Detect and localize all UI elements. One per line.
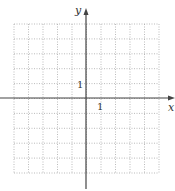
y-axis-arrow-icon	[84, 8, 89, 15]
y-tick-label: 1	[77, 79, 83, 90]
x-tick-label: 1	[97, 101, 103, 112]
y-axis-label: y	[74, 4, 82, 17]
x-axis-label: x	[168, 101, 175, 114]
coordinate-plane: y x 1 1	[0, 0, 175, 191]
x-axis-arrow-icon	[168, 96, 175, 101]
